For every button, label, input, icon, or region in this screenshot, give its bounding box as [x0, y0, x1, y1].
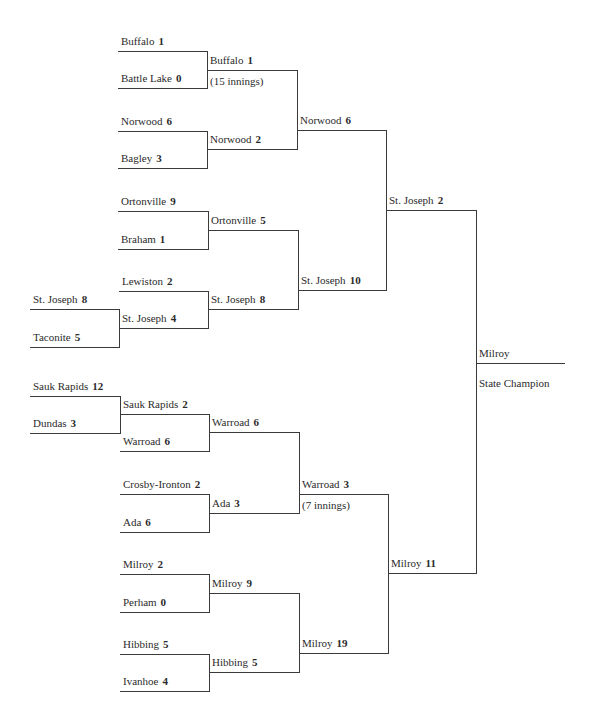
team-entry: Norwood6: [300, 114, 351, 127]
bracket-line: [120, 451, 209, 452]
team-entry: St. Joseph8: [33, 293, 87, 306]
team-name: Warroad: [123, 435, 161, 447]
team-entry: Milroy2: [123, 558, 163, 571]
team-entry: Buffalo1: [121, 35, 164, 48]
team-entry: Lewiston2: [122, 275, 172, 288]
team-score: 1: [158, 35, 164, 47]
team-name: Hibbing: [123, 638, 159, 650]
team-score: 9: [247, 577, 253, 589]
team-name: St. Joseph: [301, 274, 346, 286]
team-score: 6: [165, 435, 171, 447]
team-name: Crosby-Ironton: [123, 478, 191, 490]
bracket-line: [120, 574, 209, 575]
bracket-line: [207, 149, 297, 150]
team-entry: Milroy9: [212, 577, 252, 590]
bracket-line: [209, 593, 299, 594]
team-name: Taconite: [33, 331, 71, 343]
bracket-line: [120, 414, 209, 415]
team-entry: Taconite5: [33, 331, 80, 344]
bracket-line: [120, 532, 209, 533]
team-score: 12: [92, 380, 103, 392]
team-entry: Milroy19: [302, 637, 348, 650]
team-name: Battle Lake: [121, 72, 172, 84]
team-name: Sauk Rapids: [33, 380, 88, 392]
bracket-connector: [207, 51, 208, 89]
team-score: 3: [71, 417, 77, 429]
team-name: Warroad: [302, 478, 340, 490]
bracket-connector: [207, 131, 208, 169]
bracket-line: [120, 494, 209, 495]
bracket-line: [298, 290, 386, 291]
team-name: Hibbing: [212, 656, 248, 668]
team-entry: Perham0: [123, 596, 166, 609]
team-score: 4: [162, 675, 168, 687]
team-name: Milroy: [302, 637, 333, 649]
team-entry: Norwood6: [121, 115, 172, 128]
bracket-line: [118, 249, 208, 250]
bracket-connector: [208, 291, 209, 329]
team-entry: Hibbing5: [123, 638, 169, 651]
team-name: Ortonville: [121, 195, 166, 207]
team-score: 6: [254, 416, 260, 428]
team-name: Ada: [212, 497, 230, 509]
team-entry: St. Joseph4: [122, 312, 176, 325]
bracket-line: [208, 309, 298, 310]
team-entry: Bagley3: [121, 152, 162, 165]
team-entry: Ortonville5: [211, 214, 266, 227]
bracket-connector: [299, 432, 300, 514]
team-score: 2: [256, 133, 262, 145]
bracket-connector: [209, 574, 210, 613]
team-name: St. Joseph: [211, 293, 256, 305]
bracket-connector: [297, 70, 298, 150]
team-name: Lewiston: [122, 275, 163, 287]
bracket-connector: [388, 494, 389, 654]
bracket-line: [299, 653, 388, 654]
innings-note: (15 innings): [210, 75, 263, 88]
team-name: Ortonville: [211, 214, 256, 226]
bracket-line: [30, 309, 119, 310]
team-score: 2: [182, 398, 188, 410]
team-entry: St. Joseph8: [211, 293, 265, 306]
team-entry: Battle Lake0: [121, 72, 182, 85]
bracket-line: [30, 433, 120, 434]
bracket-line: [209, 513, 299, 514]
bracket-line: [208, 230, 298, 231]
bracket-connector: [476, 210, 477, 574]
team-score: 5: [260, 214, 266, 226]
bracket-line: [119, 328, 208, 329]
bracket-connector: [209, 414, 210, 452]
bracket-connector: [120, 396, 121, 434]
team-entry: Warroad3: [302, 478, 349, 491]
team-entry: Crosby-Ironton2: [123, 478, 200, 491]
team-name: Perham: [123, 596, 157, 608]
team-entry: Hibbing5: [212, 656, 258, 669]
bracket-line: [118, 168, 207, 169]
bracket-line: [297, 130, 386, 131]
bracket-line: [118, 211, 208, 212]
bracket-line: [119, 291, 208, 292]
team-score: 2: [167, 275, 173, 287]
team-name: Bagley: [121, 152, 152, 164]
team-entry: Ivanhoe4: [123, 675, 168, 688]
tournament-bracket: St. Joseph8Taconite5Sauk Rapids12Dundas3…: [0, 0, 597, 725]
bracket-line: [118, 131, 207, 132]
team-entry: St. Joseph2: [389, 194, 443, 207]
team-entry: Sauk Rapids2: [123, 398, 188, 411]
team-entry: Ada6: [123, 516, 151, 529]
bracket-line: [476, 363, 565, 364]
team-entry: Buffalo1: [210, 54, 253, 67]
innings-note: (7 innings): [302, 499, 350, 512]
team-score: 0: [161, 596, 167, 608]
team-name: Buffalo: [210, 54, 243, 66]
team-score: 9: [170, 195, 176, 207]
team-entry: Milroy11: [391, 557, 436, 570]
bracket-line: [209, 672, 299, 673]
team-score: 3: [156, 152, 162, 164]
team-name: St. Joseph: [33, 293, 78, 305]
team-name: Norwood: [210, 133, 252, 145]
team-entry: Sauk Rapids12: [33, 380, 103, 393]
team-name: St. Joseph: [389, 194, 434, 206]
team-score: 6: [346, 114, 352, 126]
bracket-line: [118, 88, 207, 89]
team-name: Ada: [123, 516, 141, 528]
